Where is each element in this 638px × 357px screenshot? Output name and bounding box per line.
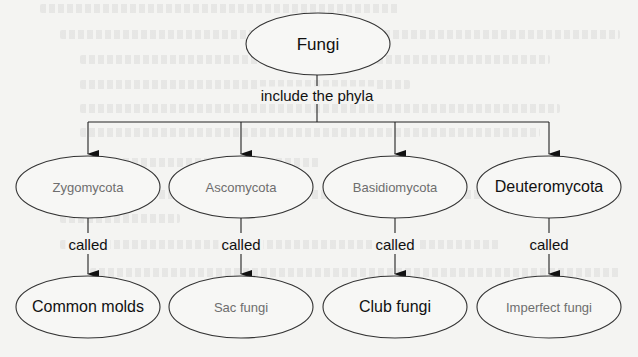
common-molds-label: Common molds — [32, 299, 144, 315]
deuteromycota-label: Deuteromycota — [495, 179, 604, 195]
called-label-zygomycota: called — [65, 236, 110, 253]
called-label-ascomycota: called — [218, 236, 263, 253]
sac-fungi-label: Sac fungi — [214, 301, 268, 314]
called-label-basidiomycota: called — [372, 236, 417, 253]
ascomycota-label: Ascomycota — [206, 181, 277, 194]
imperfect-fungi-label: Imperfect fungi — [506, 301, 592, 314]
club-fungi-label: Club fungi — [359, 299, 431, 315]
include-the-phyla-label: include the phyla — [258, 87, 377, 104]
basidiomycota-label: Basidiomycota — [353, 181, 438, 194]
called-label-deuteromycota: called — [526, 236, 571, 253]
zygomycota-label: Zygomycota — [53, 181, 124, 194]
fungi-label: Fungi — [297, 36, 340, 53]
